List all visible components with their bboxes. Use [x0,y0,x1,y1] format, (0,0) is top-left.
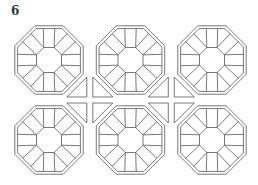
panel-spoke [225,65,244,66]
octagon-inner-border [18,29,81,92]
panel-spoke [23,122,37,135]
panel-spoke [217,73,218,92]
panel-spoke [23,42,37,55]
octagon-center [200,48,225,73]
panel-spoke [136,73,149,87]
panel-spoke [112,34,125,48]
panel-spoke [143,65,162,66]
octagon-outer-border [178,106,246,174]
panel-spoke [206,109,207,128]
panel-spoke [112,73,125,87]
panel-spoke [99,145,118,146]
panel-spoke [54,29,55,48]
panel-spoke [194,34,207,48]
cross-triangle-insert [67,77,87,97]
panel-spoke [186,65,200,78]
panel-spoke [194,73,207,87]
octagon-outer-border [96,106,164,174]
panel-spoke [104,65,118,78]
octagon-center [118,48,143,73]
panel-spoke [143,134,162,135]
panel-spoke [186,42,200,55]
panel-spoke [181,65,200,66]
panel-spoke [225,134,244,135]
panel-spoke [31,34,44,48]
panel-spoke [54,34,67,48]
panel-spoke [181,134,200,135]
panel-spoke [186,122,200,135]
panel-spoke [112,114,125,128]
panel-spoke [18,54,37,55]
panel-spoke [206,29,207,48]
panel-spoke [54,73,67,87]
panel-spoke [136,73,137,92]
panel-spoke [18,65,37,66]
cross-triangle-insert [174,77,194,97]
panel-spoke [18,145,37,146]
panel-spoke [186,145,200,158]
panel-spoke [217,34,230,48]
octagon-inner-border [181,29,244,92]
octagon-outer-border [15,26,83,94]
panel-spoke [62,145,76,158]
cross-triangle-insert [67,103,87,123]
panel-spoke [43,73,44,92]
octagon-outer-border [96,26,164,94]
panel-spoke [62,54,81,55]
panel-spoke [43,153,44,172]
panel-spoke [181,145,200,146]
panel-spoke [62,145,81,146]
panel-spoke [54,153,55,172]
panel-spoke [136,153,137,172]
panel-spoke [112,153,125,167]
octagon-center [118,128,143,153]
panel-spoke [23,145,37,158]
panel-spoke [206,73,207,92]
panel-spoke [143,145,162,146]
panel-spoke [54,153,67,167]
octagon-outer-border [15,106,83,174]
panel-spoke [136,114,149,128]
panel-spoke [225,145,244,146]
panel-spoke [62,65,81,66]
panel-spoke [217,109,218,128]
panel-spoke [206,153,207,172]
panel-spoke [143,42,157,55]
panel-spoke [125,73,126,92]
panel-spoke [23,65,37,78]
octagon-outer-border [178,26,246,94]
panel-spoke [31,73,44,87]
panel-spoke [31,114,44,128]
cross-triangle-insert [93,103,113,123]
panel-spoke [43,29,44,48]
panel-spoke [62,134,81,135]
panel-spoke [217,153,230,167]
panel-spoke [136,109,137,128]
panel-spoke [217,29,218,48]
panel-spoke [125,153,126,172]
cross-triangle-insert [148,77,168,97]
panel-spoke [143,54,162,55]
panel-spoke [62,122,76,135]
panel-spoke [104,42,118,55]
octagon-tile-pattern [0,0,258,185]
panel-spoke [143,145,157,158]
panel-spoke [143,122,157,135]
panel-spoke [104,145,118,158]
octagon-center [37,48,62,73]
octagon-inner-border [99,109,162,172]
panel-spoke [54,73,55,92]
panel-spoke [136,34,149,48]
panel-spoke [194,114,207,128]
octagon-inner-border [18,109,81,172]
panel-spoke [18,134,37,135]
panel-spoke [136,153,149,167]
panel-spoke [43,109,44,128]
panel-spoke [225,122,239,135]
panel-spoke [181,54,200,55]
cross-triangle-insert [148,103,168,123]
panel-spoke [194,153,207,167]
panel-spoke [125,29,126,48]
panel-spoke [217,114,230,128]
panel-spoke [31,153,44,167]
